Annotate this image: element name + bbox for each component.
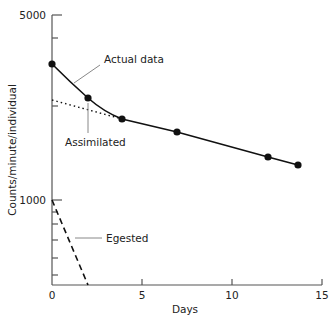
y-tick-1000: 1000 xyxy=(19,194,46,206)
y-axis-label: Counts/minute/individual xyxy=(6,84,18,216)
actual-leader xyxy=(74,65,100,83)
egested-annotation: Egested xyxy=(106,232,148,244)
actual-data-annotation: Actual data xyxy=(104,53,164,65)
actual-data-points xyxy=(48,60,301,168)
axes xyxy=(52,15,322,285)
decay-chart: 5000 1000 0 5 10 15 Days Counts/minute/i… xyxy=(0,0,335,323)
assimilated-line xyxy=(52,100,122,119)
y-tick-5000: 5000 xyxy=(19,9,46,21)
x-tick-0: 0 xyxy=(49,289,56,301)
x-axis-label: Days xyxy=(172,303,198,315)
egested-line xyxy=(52,200,88,285)
x-tick-5: 5 xyxy=(139,289,146,301)
x-tick-15: 15 xyxy=(315,289,328,301)
assimilated-annotation: Assimilated xyxy=(65,136,126,148)
actual-data-line xyxy=(52,64,298,165)
x-tick-10: 10 xyxy=(225,289,238,301)
